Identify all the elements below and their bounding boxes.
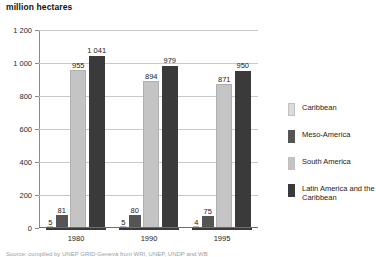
bar: 871 bbox=[216, 84, 232, 228]
bar: 950 bbox=[235, 71, 251, 228]
bar-value-label: 80 bbox=[131, 206, 139, 215]
bar-group: 5808949791990 bbox=[119, 30, 179, 228]
y-axis-tick-label: 1 200 bbox=[13, 26, 32, 35]
x-axis-baseline bbox=[39, 227, 258, 228]
y-axis-tick bbox=[35, 129, 39, 130]
bar: 1 041 bbox=[89, 56, 105, 228]
bar-value-label: 75 bbox=[204, 207, 212, 216]
y-axis-tick bbox=[35, 162, 39, 163]
legend-item[interactable]: Latin America and the Caribbean bbox=[288, 184, 376, 202]
source-note: Source: compiled by UNEP GRID-Geneva fro… bbox=[6, 251, 208, 257]
bar-value-label: 5 bbox=[48, 218, 52, 227]
legend-item-label: Caribbean bbox=[302, 103, 376, 112]
y-axis-tick-label: 1 000 bbox=[13, 59, 32, 68]
legend: CaribbeanMeso-AmericaSouth AmericaLatin … bbox=[288, 103, 376, 202]
legend-swatch-icon bbox=[288, 103, 295, 116]
legend-item[interactable]: South America bbox=[288, 157, 376, 170]
legend-item-label: Meso-America bbox=[302, 130, 376, 139]
y-axis-tick-label: 400 bbox=[19, 158, 32, 167]
y-axis-tick bbox=[35, 63, 39, 64]
y-axis-tick bbox=[35, 228, 39, 229]
y-axis-tick bbox=[35, 30, 39, 31]
legend-item-label: Latin America and the Caribbean bbox=[302, 184, 376, 202]
legend-swatch-icon bbox=[288, 130, 295, 143]
group-underline bbox=[119, 228, 179, 230]
y-axis-tick-label: 800 bbox=[19, 92, 32, 101]
group-underline bbox=[192, 228, 252, 230]
bar-value-label: 979 bbox=[163, 56, 176, 65]
legend-item[interactable]: Caribbean bbox=[288, 103, 376, 116]
bar-group: 5819551 0411980 bbox=[46, 30, 106, 228]
bar-value-label: 955 bbox=[72, 61, 85, 70]
bar: 81 bbox=[56, 215, 68, 228]
x-axis-tick-label: 1995 bbox=[192, 234, 252, 243]
legend-item-label: South America bbox=[302, 157, 376, 166]
bar-value-label: 894 bbox=[145, 72, 158, 81]
bar: 955 bbox=[70, 70, 86, 228]
bar: 894 bbox=[143, 81, 159, 229]
group-underline bbox=[46, 228, 106, 230]
bar-value-label: 950 bbox=[236, 61, 249, 70]
bar-value-label: 1 041 bbox=[87, 46, 106, 55]
bar-value-label: 5 bbox=[121, 218, 125, 227]
y-axis-tick bbox=[35, 96, 39, 97]
chart-unit-title: million hectares bbox=[6, 2, 72, 12]
bar: 979 bbox=[162, 66, 178, 228]
chart-container: million hectares 02004006008001 0001 200… bbox=[0, 0, 376, 257]
legend-swatch-icon bbox=[288, 184, 295, 197]
x-axis-tick-label: 1990 bbox=[119, 234, 179, 243]
y-axis-tick bbox=[35, 195, 39, 196]
bar-group: 4758719501995 bbox=[192, 30, 252, 228]
y-axis-tick-label: 0 bbox=[28, 224, 32, 233]
x-axis-tick-label: 1980 bbox=[46, 234, 106, 243]
plot-area: 02004006008001 0001 200 5819551 04119805… bbox=[39, 30, 258, 228]
bar-value-label: 4 bbox=[194, 218, 198, 227]
legend-swatch-icon bbox=[288, 157, 295, 170]
bar-value-label: 81 bbox=[58, 206, 66, 215]
y-axis-tick-label: 600 bbox=[19, 125, 32, 134]
y-axis-tick-label: 200 bbox=[19, 191, 32, 200]
bar-value-label: 871 bbox=[218, 75, 231, 84]
legend-item[interactable]: Meso-America bbox=[288, 130, 376, 143]
